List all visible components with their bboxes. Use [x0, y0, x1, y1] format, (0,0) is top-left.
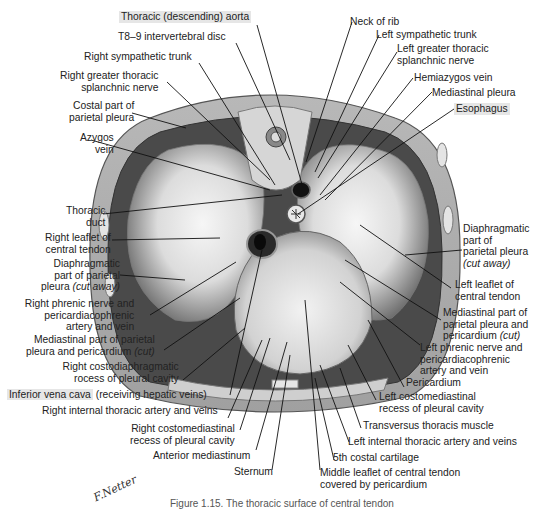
label-thoracic-aorta: Thoracic (descending) aorta — [119, 11, 251, 23]
label-thoracic-duct: Thoracic duct — [66, 205, 105, 228]
label-5th-costal-cartilage: 5th costal cartilage — [333, 452, 419, 464]
label-right-sympathetic-trunk: Right sympathetic trunk — [84, 51, 192, 63]
label-right-costodiaphragmatic-recess: Right costodiaphragmatic rocess of pleur… — [62, 361, 179, 384]
label-pericardium: Pericardium — [406, 377, 461, 389]
label-left-internal-thoracic: Left internal thoracic artery and veins — [348, 436, 517, 448]
label-middle-leaflet: Middle leaflet of central tendon covered… — [320, 467, 460, 490]
label-left-costomediastinal-recess: Left costomediastinal recess of pleural … — [379, 391, 484, 414]
label-transversus-thoracis: Transversus thoracis muscle — [363, 420, 494, 432]
label-right-greater-splanchnic: Right greater thoracic splanchnic nerve — [60, 70, 158, 93]
label-left-diaphragmatic-pleura: Diaphragmatic part of parietal pleura (c… — [463, 223, 529, 269]
label-neck-of-rib: Neck of rib — [350, 16, 399, 28]
label-left-leaflet: Left leaflet of central tendon — [455, 279, 520, 302]
label-right-phrenic-nerve: Right phrenic nerve and pericardiacophre… — [23, 298, 134, 333]
label-costal-parietal-pleura: Costal part of parietal pleura — [69, 100, 134, 123]
label-inferior-vena-cava: Inferior vena cava (receiving hepatic ve… — [7, 389, 207, 401]
label-mediastinal-pleura: Mediastinal pleura — [432, 87, 516, 99]
label-left-mediastinal-pleura: Mediastinal part of parietal pleura and … — [443, 307, 528, 342]
label-anterior-mediastinum: Anterior mediastinum — [153, 450, 250, 462]
figure-caption: Figure 1.15. The thoracic surface of cen… — [170, 498, 394, 509]
label-right-costomediastinal-recess: Right costomediastinal recess of pleural… — [130, 423, 235, 446]
label-esophagus: Esophagus — [454, 103, 510, 115]
label-left-phrenic-nerve: Left phrenic nerve and pericardiacophren… — [420, 342, 522, 377]
label-azygos-vein: Azygos vein — [80, 132, 114, 155]
label-sternum: Sternum — [234, 466, 273, 478]
label-left-sympathetic-trunk: Left sympathetic trunk — [376, 29, 477, 41]
label-right-internal-thoracic: Right internal thoracic artery and veins — [42, 405, 218, 417]
label-right-leaflet: Right leaflet of central tendon — [45, 232, 111, 255]
label-right-diaphragmatic-pleura: Diaphragmatic part of parietal pleura (c… — [41, 258, 120, 293]
label-right-mediastinal-pleura: Mediastinal part of parietal pleura and … — [26, 334, 155, 357]
label-hemiazygos-vein: Hemiazygos vein — [414, 72, 492, 84]
label-t8-9-disc: T8–9 intervertebral disc — [118, 31, 226, 43]
label-left-greater-splanchnic: Left greater thoracic splanchnic nerve — [397, 43, 489, 66]
